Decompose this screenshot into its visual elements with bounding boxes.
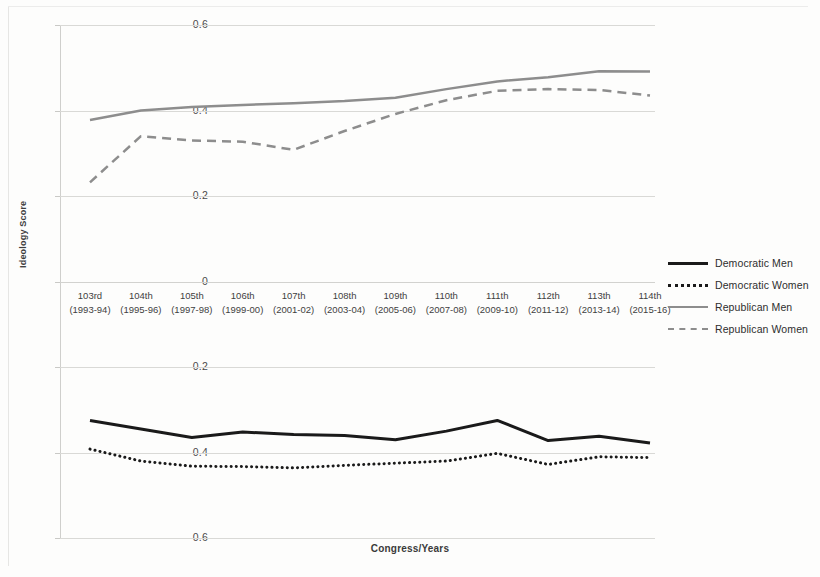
x-tick-label: 108th(2003-04) (319, 289, 370, 317)
x-tick-congress: 104th (129, 290, 153, 301)
solid-black-line-sample (668, 257, 708, 269)
legend-label: Democratic Men (715, 257, 793, 269)
x-tick-years: (1997-98) (166, 303, 217, 317)
x-tick-label: 110th(2007-08) (421, 289, 472, 317)
dotted-black-line-sample (668, 279, 708, 291)
x-tick-congress: 107th (282, 290, 306, 301)
x-tick-congress: 105th (180, 290, 204, 301)
legend-item: Democratic Men (668, 252, 818, 274)
x-tick-years: (2001-02) (268, 303, 319, 317)
x-tick-congress: 113th (588, 290, 611, 301)
x-tick-label: 112th(2011-12) (523, 289, 574, 317)
dashed-gray-line-sample (668, 323, 708, 335)
x-tick-label: 111th(2009-10) (472, 289, 523, 317)
x-tick-label: 109th(2005-06) (370, 289, 421, 317)
series-line (90, 420, 650, 443)
series-lines (60, 25, 655, 538)
legend-item: Republican Men (668, 296, 818, 318)
legend-item: Republican Women (668, 318, 818, 340)
x-tick-years: (2013-14) (574, 303, 625, 317)
x-tick-years: (2005-06) (370, 303, 421, 317)
x-tick-congress: 111th (486, 290, 508, 301)
x-tick-label: 105th(1997-98) (166, 289, 217, 317)
series-line (90, 71, 650, 120)
solid-gray-line-sample (668, 301, 708, 313)
plot-area (60, 25, 655, 538)
x-tick-congress: 108th (333, 290, 357, 301)
x-tick-years: (2007-08) (421, 303, 472, 317)
x-axis-title: Congress/Years (0, 543, 820, 554)
legend-label: Republican Men (715, 301, 792, 313)
legend-item: Democratic Women (668, 274, 818, 296)
x-tick-label: 103rd(1993-94) (65, 289, 116, 317)
x-tick-label: 107th(2001-02) (268, 289, 319, 317)
chart-legend: Democratic MenDemocratic WomenRepublican… (668, 252, 818, 340)
series-line (90, 89, 650, 182)
gridline (60, 538, 655, 539)
x-tick-label: 113th(2013-14) (574, 289, 625, 317)
legend-label: Republican Women (715, 323, 808, 335)
x-tick-congress: 112th (537, 290, 560, 301)
x-tick-congress: 110th (435, 290, 458, 301)
x-tick-congress: 106th (231, 290, 255, 301)
x-tick-years: (1999-00) (217, 303, 268, 317)
x-tick-congress: 114th (638, 290, 661, 301)
x-tick-years: (2003-04) (319, 303, 370, 317)
x-tick-congress: 109th (384, 290, 408, 301)
x-axis-tick-labels: 103rd(1993-94)104th(1995-96)105th(1997-9… (60, 289, 655, 329)
series-line (90, 449, 650, 468)
scan-edge-left (8, 6, 9, 566)
x-tick-years: (1995-96) (115, 303, 166, 317)
chart-page: Ideology Score 0.60.40.20-0.2-0.4-0.6 10… (0, 0, 820, 577)
y-tick-mark (55, 538, 60, 539)
x-tick-years: (1993-94) (65, 303, 116, 317)
y-axis-title: Ideology Score (18, 201, 28, 268)
x-tick-label: 106th(1999-00) (217, 289, 268, 317)
x-tick-years: (2009-10) (472, 303, 523, 317)
legend-label: Democratic Women (715, 279, 809, 291)
x-tick-label: 104th(1995-96) (115, 289, 166, 317)
x-tick-years: (2011-12) (523, 303, 574, 317)
scan-edge-top (8, 6, 808, 7)
x-tick-congress: 103rd (78, 290, 102, 301)
